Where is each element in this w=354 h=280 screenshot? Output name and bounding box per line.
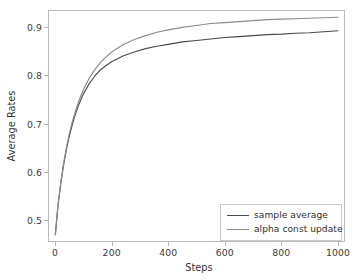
x-tick-label: 200 xyxy=(103,247,121,258)
x-tick-mark xyxy=(338,242,339,246)
x-tick-label: 600 xyxy=(216,247,234,258)
x-tick-label: 1000 xyxy=(326,247,350,258)
y-tick-mark xyxy=(44,75,48,76)
legend-line-swatch-alpha-const-update xyxy=(227,229,249,230)
x-tick-mark xyxy=(225,242,226,246)
x-tick-label: 800 xyxy=(272,247,290,258)
y-tick-mark xyxy=(44,220,48,221)
x-axis-title: Steps xyxy=(0,262,354,273)
y-tick-mark xyxy=(44,172,48,173)
x-tick-mark xyxy=(112,242,113,246)
y-axis-title: Average Rates xyxy=(6,10,20,242)
legend-item-alpha-const-update: alpha const update xyxy=(225,222,337,236)
x-tick-mark xyxy=(168,242,169,246)
x-tick-label: 0 xyxy=(52,247,58,258)
y-tick-mark xyxy=(44,124,48,125)
legend-label-alpha-const-update: alpha const update xyxy=(254,224,343,234)
matplotlib-figure: 0.50.60.70.80.9 02004006008001000 Steps … xyxy=(0,0,354,280)
legend-line-swatch-sample-average xyxy=(227,215,249,216)
legend-item-sample-average: sample average xyxy=(225,208,337,222)
x-axis-title-text: Steps xyxy=(185,262,212,273)
x-tick-mark xyxy=(55,242,56,246)
y-tick-mark xyxy=(44,27,48,28)
x-tick-mark xyxy=(281,242,282,246)
chart-legend: sample average alpha const update xyxy=(220,204,342,241)
legend-label-sample-average: sample average xyxy=(254,210,328,220)
y-axis-title-text: Average Rates xyxy=(6,91,17,162)
x-tick-label: 400 xyxy=(159,247,177,258)
